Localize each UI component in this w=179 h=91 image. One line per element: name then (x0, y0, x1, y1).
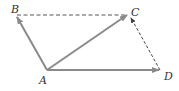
label-point-a: A (39, 75, 47, 86)
dashed-vector-d-c (131, 18, 160, 70)
diagram-graphic (0, 0, 179, 91)
label-point-b: B (11, 4, 19, 15)
label-point-c: C (131, 7, 139, 18)
vector-a-c (47, 15, 127, 70)
vector-a-b (17, 17, 47, 70)
label-point-d: D (164, 71, 173, 82)
vector-diagram: B C A D (0, 0, 179, 91)
